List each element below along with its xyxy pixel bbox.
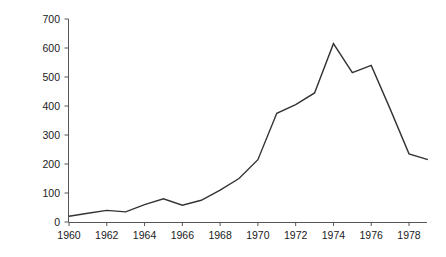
data-line-number-of-patents — [69, 44, 428, 217]
y-tick-label: 200 — [26, 159, 60, 169]
y-tick-label: 100 — [26, 188, 60, 198]
chart-figure: Number of patents 0100200300400500600700… — [0, 0, 446, 257]
y-tick-label: 400 — [26, 101, 60, 111]
y-tick-label: 300 — [26, 130, 60, 140]
chart-plot-area — [0, 0, 446, 257]
y-tick-label: 500 — [26, 72, 60, 82]
y-axis-ticks — [65, 19, 69, 222]
y-tick-label: 600 — [26, 43, 60, 53]
y-tick-label: 0 — [26, 217, 60, 227]
y-tick-label: 700 — [26, 14, 60, 24]
x-tick-label: 1978 — [387, 230, 431, 241]
